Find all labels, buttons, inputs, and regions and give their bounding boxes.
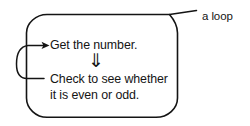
annotation-label-a-loop: a loop [202, 10, 233, 23]
loop-diagram: a loop Get the number. ⇓ Check to see wh… [0, 0, 250, 126]
annotation-leader-line [170, 11, 197, 15]
step-check-even-or-odd: Check to see whetherit is even or odd. [50, 72, 168, 103]
double-down-arrow-icon: ⇓ [88, 51, 104, 70]
step-check-line-1: Check to see whether [50, 72, 168, 86]
loop-back-arrow-path [17, 46, 45, 79]
step-check-line-2: it is even or odd. [50, 88, 168, 104]
